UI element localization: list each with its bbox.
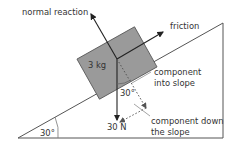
weight-angle-label: 30° bbox=[120, 88, 135, 98]
weight-label: 30 N bbox=[107, 122, 127, 132]
leader-down-slope bbox=[134, 104, 150, 116]
slope-angle-arc bbox=[55, 117, 58, 138]
component-into-label-1: component bbox=[154, 67, 202, 77]
component-down-label-2: the slope bbox=[151, 127, 190, 137]
friction-label: friction bbox=[170, 21, 199, 31]
force-diagram: 30° 3 kg normal reaction friction 30 N 3… bbox=[0, 0, 237, 153]
mass-label: 3 kg bbox=[88, 60, 106, 70]
component-into-label-2: into slope bbox=[154, 78, 195, 88]
component-down-label-1: component down bbox=[151, 116, 224, 126]
slope-angle-label: 30° bbox=[40, 128, 55, 138]
normal-reaction-label: normal reaction bbox=[22, 7, 88, 17]
